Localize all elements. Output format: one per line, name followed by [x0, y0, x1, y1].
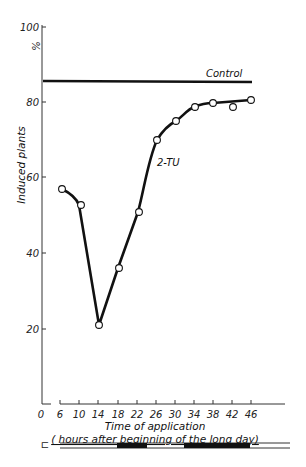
data-point — [116, 265, 123, 272]
y-tick-20: 20 — [26, 324, 39, 335]
y-axis-title: Induced plants — [15, 126, 27, 204]
y-ticks — [42, 27, 46, 329]
x-tick-38: 38 — [207, 409, 220, 420]
dark-period-1 — [117, 443, 147, 448]
x-tick-labels: 0 6 10 14 18 22 26 30 34 38 42 46 — [38, 409, 258, 420]
x-tick-26: 26 — [150, 409, 163, 420]
data-point — [136, 209, 143, 216]
dark-period-2 — [184, 443, 250, 448]
x-tick-46: 46 — [245, 409, 258, 420]
series-2tu-markers — [59, 97, 255, 329]
photoperiod-legend-symbol: ⊏ — [41, 439, 49, 450]
x-ticks — [60, 400, 251, 404]
data-point — [210, 100, 217, 107]
series-2tu-line — [62, 100, 251, 325]
control-label: Control — [206, 68, 243, 79]
y-tick-80: 80 — [26, 97, 39, 108]
data-point — [173, 118, 180, 125]
x-tick-22: 22 — [131, 409, 144, 420]
x-tick-0: 0 — [38, 409, 44, 420]
x-tick-42: 42 — [226, 409, 239, 420]
data-point — [59, 186, 66, 193]
x-tick-30: 30 — [169, 409, 182, 420]
line-chart: 100 % 80 60 40 20 Induced plants 0 6 10 … — [0, 0, 306, 467]
series-2tu-label: 2-TU — [157, 157, 180, 168]
x-tick-34: 34 — [188, 409, 201, 420]
x-tick-10: 10 — [73, 409, 86, 420]
x-axis-title: Time of application — [105, 420, 206, 432]
control-line — [43, 81, 252, 82]
data-point — [248, 97, 255, 104]
x-tick-14: 14 — [92, 409, 105, 420]
y-tick-40: 40 — [26, 248, 39, 259]
x-tick-18: 18 — [112, 409, 125, 420]
data-point — [96, 322, 103, 329]
data-point — [78, 202, 85, 209]
data-point — [154, 137, 161, 144]
x-tick-6: 6 — [57, 409, 63, 420]
y-unit-percent: % — [30, 41, 41, 51]
y-tick-100: 100 — [20, 22, 39, 33]
data-point — [230, 104, 237, 111]
y-tick-60: 60 — [26, 172, 39, 183]
data-point — [192, 104, 199, 111]
